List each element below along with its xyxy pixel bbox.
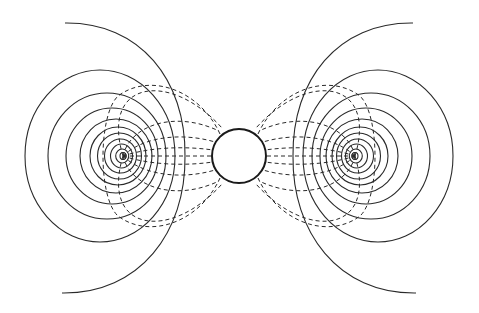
field-diagram (0, 0, 479, 313)
conducting-sphere (212, 129, 266, 183)
right-charge-group (256, 23, 453, 293)
left-charge-group (25, 23, 222, 293)
